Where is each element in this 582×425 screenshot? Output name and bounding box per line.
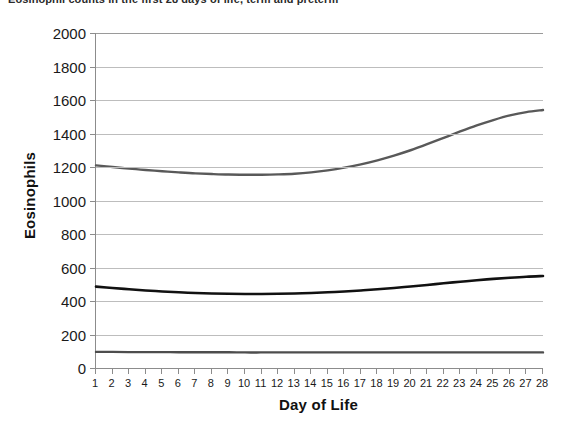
x-axis-tick-label: 5 (158, 376, 164, 390)
x-axis-tick-mark (459, 368, 460, 374)
y-axis-tick-mark (90, 201, 96, 202)
x-axis-tick-label: 4 (142, 376, 148, 390)
x-axis-tick-mark (410, 368, 411, 374)
y-axis-tick-labels: 0200400600800100012001400160018002000 (18, 12, 86, 372)
x-axis-tick-mark (509, 368, 510, 374)
x-axis-tick-label: 12 (271, 376, 283, 390)
x-axis-tick-label: 3 (125, 376, 131, 390)
series-line-mean-curve (96, 276, 543, 294)
x-axis-tick-label: 9 (224, 376, 230, 390)
x-axis-tick-label: 13 (288, 376, 300, 390)
x-axis-tick-mark (492, 368, 493, 374)
series-line-lower-reference-curve (96, 352, 543, 353)
gridline (96, 201, 543, 202)
y-axis-tick-mark (90, 335, 96, 336)
series-line-upper-reference-curve (96, 110, 543, 175)
y-axis-tick-mark (90, 100, 96, 101)
x-axis-tick-mark (426, 368, 427, 374)
x-axis-tick-label: 14 (304, 376, 316, 390)
gridline (96, 167, 543, 168)
y-axis-tick-label: 0 (18, 361, 86, 376)
y-axis-tick-label: 200 (18, 327, 86, 342)
x-axis-tick-label: 7 (191, 376, 197, 390)
y-axis-tick-mark (90, 234, 96, 235)
x-axis-tick-mark (360, 368, 361, 374)
x-axis-tick-mark (211, 368, 212, 374)
x-axis-tick-label: 21 (420, 376, 432, 390)
x-axis-tick-label: 24 (470, 376, 482, 390)
gridline (96, 67, 543, 68)
x-axis-tick-label: 20 (403, 376, 415, 390)
x-axis-tick-mark (294, 368, 295, 374)
x-axis-tick-mark (443, 368, 444, 374)
y-axis-tick-mark (90, 301, 96, 302)
x-axis-tick-mark (178, 368, 179, 374)
y-axis-tick-mark (90, 33, 96, 34)
x-axis-tick-label: 28 (536, 376, 548, 390)
x-axis-tick-mark (525, 368, 526, 374)
x-axis-tick-label: 23 (453, 376, 465, 390)
x-axis-tick-label: 25 (486, 376, 498, 390)
x-axis-tick-label: 22 (437, 376, 449, 390)
y-axis-tick-label: 1600 (18, 93, 86, 108)
x-axis-tick-mark (476, 368, 477, 374)
x-axis-title: Day of Life (95, 396, 542, 413)
y-axis-tick-label: 2000 (18, 26, 86, 41)
x-axis-tick-label: 6 (175, 376, 181, 390)
x-axis-tick-mark (327, 368, 328, 374)
chart-figure: Eosinophils 0200400600800100012001400160… (0, 12, 582, 425)
gridline (96, 33, 543, 34)
gridline (96, 301, 543, 302)
x-axis-tick-mark (542, 368, 543, 374)
gridline (96, 134, 543, 135)
x-axis-tick-mark (161, 368, 162, 374)
y-axis-tick-label: 1400 (18, 126, 86, 141)
x-axis-tick-label: 10 (238, 376, 250, 390)
gridline (96, 234, 543, 235)
gridline (96, 335, 543, 336)
y-axis-tick-label: 1000 (18, 193, 86, 208)
x-axis-tick-label: 18 (370, 376, 382, 390)
x-axis-tick-label: 17 (354, 376, 366, 390)
gridline (96, 100, 543, 101)
chart-caption: Eosinophil counts in the first 28 days o… (8, 0, 574, 5)
x-axis-tick-label: 1 (92, 376, 98, 390)
y-axis-tick-label: 1200 (18, 160, 86, 175)
y-axis-tick-label: 400 (18, 294, 86, 309)
x-axis-tick-mark (145, 368, 146, 374)
x-axis-tick-label: 27 (519, 376, 531, 390)
x-axis-tick-label: 26 (503, 376, 515, 390)
x-axis-tick-label: 15 (321, 376, 333, 390)
gridline (96, 268, 543, 269)
y-axis-tick-label: 800 (18, 227, 86, 242)
x-axis-tick-mark (244, 368, 245, 374)
x-axis-tick-mark (194, 368, 195, 374)
x-axis-tick-marks (95, 368, 542, 375)
y-axis-tick-label: 1800 (18, 59, 86, 74)
x-axis-tick-mark (128, 368, 129, 374)
x-axis-tick-label: 16 (337, 376, 349, 390)
plot-area (95, 33, 543, 368)
x-axis-tick-label: 19 (387, 376, 399, 390)
y-axis-tick-mark (90, 134, 96, 135)
x-axis-tick-mark (343, 368, 344, 374)
x-axis-tick-label: 8 (208, 376, 214, 390)
y-axis-tick-mark (90, 268, 96, 269)
x-axis-tick-mark (95, 368, 96, 374)
y-axis-tick-mark (90, 167, 96, 168)
x-axis-tick-mark (227, 368, 228, 374)
x-axis-tick-labels: 1234567891011121314151617181920212223242… (95, 376, 542, 392)
x-axis-tick-mark (277, 368, 278, 374)
x-axis-tick-mark (393, 368, 394, 374)
x-axis-tick-mark (310, 368, 311, 374)
x-axis-tick-label: 2 (108, 376, 114, 390)
y-axis-tick-mark (90, 67, 96, 68)
x-axis-tick-label: 11 (255, 376, 266, 390)
y-axis-tick-label: 600 (18, 260, 86, 275)
x-axis-tick-mark (376, 368, 377, 374)
x-axis-tick-mark (261, 368, 262, 374)
x-axis-tick-mark (112, 368, 113, 374)
